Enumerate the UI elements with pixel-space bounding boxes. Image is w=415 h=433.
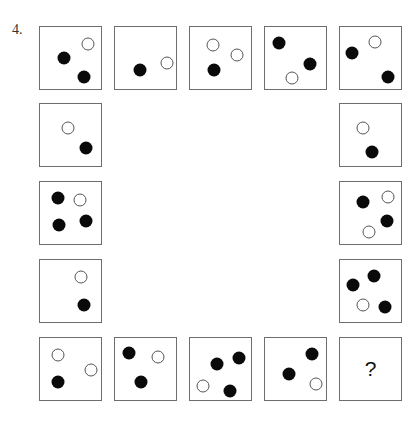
hollow-circle-icon — [369, 36, 382, 49]
pattern-box-r5c1 — [39, 337, 102, 401]
pattern-box-r5c4 — [264, 337, 327, 401]
hollow-circle-icon — [286, 72, 299, 85]
pattern-box-r3c1 — [39, 181, 102, 245]
hollow-circle-icon — [310, 378, 323, 391]
pattern-box-r2c5 — [339, 103, 402, 167]
filled-circle-icon — [347, 279, 360, 292]
filled-circle-icon — [134, 64, 147, 77]
pattern-box-r1c1 — [39, 26, 102, 90]
filled-circle-icon — [304, 58, 317, 71]
hollow-circle-icon — [357, 299, 370, 312]
pattern-box-r2c1 — [39, 103, 102, 167]
filled-circle-icon — [208, 64, 221, 77]
filled-circle-icon — [52, 376, 65, 389]
filled-circle-icon — [273, 37, 286, 50]
filled-circle-icon — [283, 368, 296, 381]
filled-circle-icon — [233, 352, 246, 365]
filled-circle-icon — [135, 376, 148, 389]
hollow-circle-icon — [197, 380, 210, 393]
filled-circle-icon — [78, 299, 91, 312]
filled-circle-icon — [381, 215, 394, 228]
hollow-circle-icon — [82, 38, 95, 51]
hollow-circle-icon — [52, 349, 65, 362]
hollow-circle-icon — [231, 49, 244, 62]
hollow-circle-icon — [357, 122, 370, 135]
pattern-box-r1c2 — [114, 26, 177, 90]
answer-box: ? — [339, 337, 402, 401]
filled-circle-icon — [357, 196, 370, 209]
filled-circle-icon — [58, 52, 71, 65]
pattern-box-r5c3 — [189, 337, 252, 401]
hollow-circle-icon — [161, 57, 174, 70]
filled-circle-icon — [306, 348, 319, 361]
pattern-box-r3c5 — [339, 181, 402, 245]
filled-circle-icon — [52, 192, 65, 205]
pattern-box-r1c4 — [264, 26, 327, 90]
filled-circle-icon — [368, 270, 381, 283]
hollow-circle-icon — [74, 194, 87, 207]
filled-circle-icon — [382, 71, 395, 84]
pattern-box-r1c5 — [339, 26, 402, 90]
filled-circle-icon — [366, 146, 379, 159]
pattern-box-r1c3 — [189, 26, 252, 90]
filled-circle-icon — [78, 71, 91, 84]
hollow-circle-icon — [207, 39, 220, 52]
filled-circle-icon — [53, 219, 66, 232]
filled-circle-icon — [80, 142, 93, 155]
filled-circle-icon — [379, 301, 392, 314]
question-number: 4. — [12, 22, 23, 38]
pattern-box-r5c2 — [114, 337, 177, 401]
filled-circle-icon — [211, 358, 224, 371]
hollow-circle-icon — [75, 271, 88, 284]
question-mark: ? — [340, 338, 401, 400]
filled-circle-icon — [224, 385, 237, 398]
filled-circle-icon — [123, 347, 136, 360]
filled-circle-icon — [80, 215, 93, 228]
hollow-circle-icon — [382, 191, 395, 204]
hollow-circle-icon — [85, 364, 98, 377]
hollow-circle-icon — [62, 122, 75, 135]
filled-circle-icon — [346, 47, 359, 60]
hollow-circle-icon — [152, 351, 165, 364]
hollow-circle-icon — [363, 226, 376, 239]
pattern-box-r4c1 — [39, 259, 102, 323]
pattern-box-r4c5 — [339, 259, 402, 323]
